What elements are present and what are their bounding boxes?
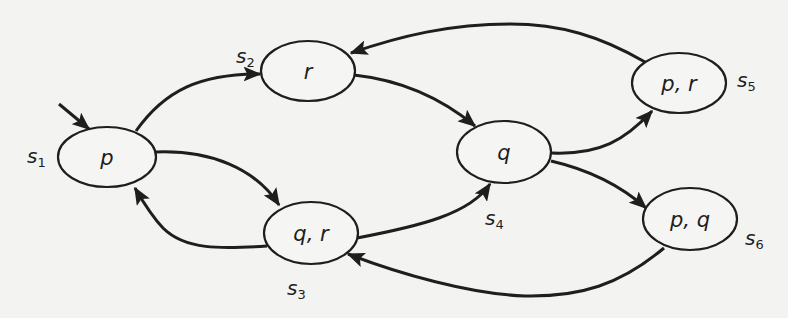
- state-s5: p, r s5: [632, 53, 756, 113]
- transition-s3-s4: [357, 184, 490, 238]
- state-s1: p s1: [27, 127, 156, 187]
- state-s5-props: p, r: [660, 72, 698, 96]
- state-s2-props: r: [304, 60, 314, 84]
- state-s2: r s2: [236, 41, 355, 101]
- state-s4: q s4: [457, 121, 551, 232]
- kripke-diagram: p s1 r s2 q, r s3 q s4 p, r s5 p, q s6: [0, 0, 788, 318]
- transition-s1-s2: [136, 74, 260, 131]
- transition-s2-s4: [354, 75, 475, 126]
- transition-s4-s6: [551, 161, 646, 208]
- state-s2-label: s2: [236, 44, 255, 70]
- transition-s4-s5: [552, 111, 652, 153]
- state-s3-label: s3: [287, 276, 306, 302]
- transition-s5-s2: [351, 24, 645, 62]
- state-s3: q, r s3: [264, 202, 358, 302]
- state-s6-label: s6: [745, 226, 764, 252]
- state-s4-props: q: [497, 141, 510, 165]
- state-s1-props: p: [99, 146, 113, 170]
- state-s5-label: s5: [737, 68, 756, 94]
- transition-s6-s3: [348, 248, 664, 296]
- state-s4-label: s4: [485, 206, 504, 232]
- transition-s1-s3: [156, 152, 279, 205]
- state-s6: p, q s6: [643, 188, 764, 252]
- initial-state-arrow: [59, 104, 89, 129]
- state-s6-props: p, q: [669, 208, 710, 232]
- state-s3-props: q, r: [293, 222, 330, 246]
- state-s1-label: s1: [27, 144, 46, 170]
- transition-s3-s1: [135, 188, 267, 248]
